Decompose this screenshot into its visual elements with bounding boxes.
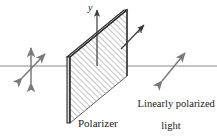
linearly-polarized-light-line1: Linearly polarized: [138, 98, 215, 109]
polarizer-label: Polarizer: [78, 118, 118, 130]
polarized-diagonal-arrow: [162, 53, 185, 81]
linearly-polarized-light-line2: light: [126, 120, 216, 131]
x-axis-label: x: [138, 24, 142, 35]
y-axis-label: y: [88, 2, 92, 13]
polarizer-plate-hatching: [70, 10, 127, 123]
linearly-polarized-light-label: Linearly polarized light: [126, 87, 216, 137]
polarizer-diagram: y x Polarizer Linearly polarized light: [0, 0, 217, 137]
